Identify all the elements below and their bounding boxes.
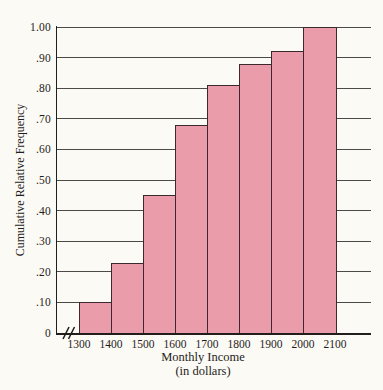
x-axis-line [56,333,372,335]
bar-1600-1700 [175,125,209,333]
y-tick-label: .10 [3,295,51,309]
x-axis-subtitle: (in dollars) [175,364,230,378]
y-tick-label: .20 [3,265,51,279]
bar-1500-1600 [143,195,177,333]
cumulative-frequency-chart: Cumulative Relative Frequency 1.00.90.80… [0,0,383,390]
bar-1700-1800 [207,85,241,333]
y-axis-line [56,26,58,333]
y-tick-label: .70 [3,112,51,126]
y-tick-label: 0 [3,326,51,340]
x-axis-title: Monthly Income [161,350,245,364]
y-tick-label: .40 [3,204,51,218]
plot-area [57,27,371,333]
bar-1900-2000 [271,51,305,333]
x-tick-label: 2100 [324,338,347,351]
y-tick-label: .30 [3,234,51,248]
bar-1800-1900 [239,64,273,333]
bar-1300-1400 [79,302,113,333]
bar-1400-1500 [111,263,145,333]
y-tick-label: .50 [3,173,51,187]
x-tick-label: 2000 [292,338,315,351]
y-tick-label: 1.00 [3,20,51,34]
x-tick-label: 1900 [260,338,283,351]
y-tick-label: .60 [3,142,51,156]
bar-2000-2100 [303,27,337,333]
y-tick-label: .80 [3,81,51,95]
axis-break-icon [60,325,78,341]
x-tick-label: 1400 [100,338,123,351]
x-tick-label: 1500 [132,338,155,351]
y-tick-label: .90 [3,51,51,65]
